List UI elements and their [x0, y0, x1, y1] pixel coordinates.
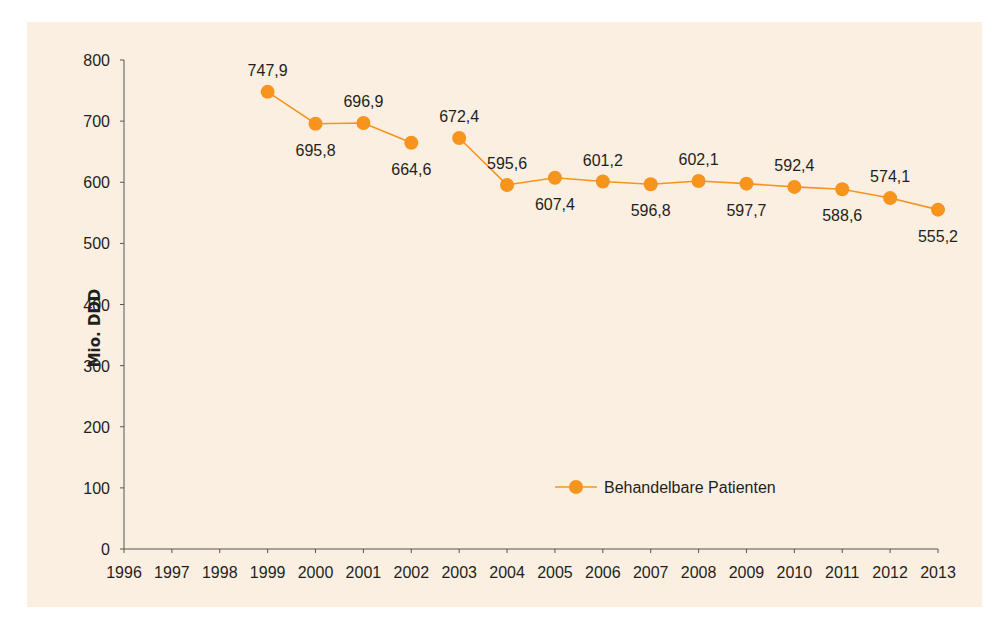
y-tick-label: 700: [83, 113, 110, 130]
data-label: 555,2: [918, 228, 958, 245]
x-tick-label: 2002: [393, 564, 429, 581]
y-tick-label: 0: [101, 541, 110, 558]
data-label: 672,4: [439, 108, 479, 125]
data-label: 664,6: [391, 161, 431, 178]
data-point-marker: [835, 182, 849, 196]
data-label: 597,7: [726, 202, 766, 219]
x-tick-label: 2003: [441, 564, 477, 581]
data-point-marker: [931, 203, 945, 217]
x-tick-label: 2012: [872, 564, 908, 581]
legend-label: Behandelbare Patienten: [604, 479, 776, 496]
legend-marker-icon: [569, 480, 583, 494]
data-label: 596,8: [631, 202, 671, 219]
y-tick-label: 200: [83, 419, 110, 436]
line-chart: 0100200300400500600700800199619971998199…: [0, 0, 1006, 630]
x-tick-label: 1997: [154, 564, 190, 581]
data-point-marker: [452, 131, 466, 145]
data-point-marker: [404, 136, 418, 150]
x-tick-label: 2011: [825, 564, 860, 581]
y-axis-title: Mio. DDD: [86, 289, 104, 368]
y-tick-label: 100: [83, 480, 110, 497]
data-label: 695,8: [296, 142, 336, 159]
x-tick-label: 2004: [489, 564, 525, 581]
data-point-marker: [883, 191, 897, 205]
axes: 0100200300400500600700800199619971998199…: [83, 52, 956, 581]
data-label: 592,4: [774, 157, 814, 174]
x-tick-label: 1998: [202, 564, 238, 581]
x-tick-label: 2005: [537, 564, 573, 581]
data-point-marker: [739, 177, 753, 191]
x-tick-label: 2010: [777, 564, 813, 581]
data-point-marker: [692, 174, 706, 188]
legend: Behandelbare Patienten: [555, 479, 776, 496]
y-tick-label: 800: [83, 52, 110, 69]
data-label: 607,4: [535, 196, 575, 213]
series-line: [459, 138, 938, 210]
data-label: 588,6: [822, 207, 862, 224]
x-tick-label: 1999: [250, 564, 286, 581]
x-tick-label: 2008: [681, 564, 717, 581]
data-label: 595,6: [487, 155, 527, 172]
data-point-marker: [356, 116, 370, 130]
data-label: 747,9: [248, 62, 288, 79]
x-tick-label: 1996: [106, 564, 142, 581]
data-point-marker: [787, 180, 801, 194]
data-label: 696,9: [343, 93, 383, 110]
data-point-marker: [548, 171, 562, 185]
x-tick-label: 2006: [585, 564, 621, 581]
data-label: 601,2: [583, 152, 623, 169]
x-tick-label: 2001: [346, 564, 382, 581]
data-point-marker: [644, 177, 658, 191]
series-line: [268, 92, 412, 143]
data-point-marker: [596, 175, 610, 189]
y-tick-label: 500: [83, 235, 110, 252]
x-tick-label: 2009: [729, 564, 765, 581]
data-labels: 747,9695,8696,9664,6672,4595,6607,4601,2…: [248, 62, 958, 245]
x-tick-label: 2013: [920, 564, 956, 581]
data-label: 574,1: [870, 168, 910, 185]
data-label: 602,1: [679, 151, 719, 168]
data-point-marker: [261, 85, 275, 99]
x-tick-label: 2007: [633, 564, 669, 581]
x-tick-label: 2000: [298, 564, 334, 581]
data-point-marker: [309, 117, 323, 131]
data-point-marker: [500, 178, 514, 192]
y-tick-label: 600: [83, 174, 110, 191]
